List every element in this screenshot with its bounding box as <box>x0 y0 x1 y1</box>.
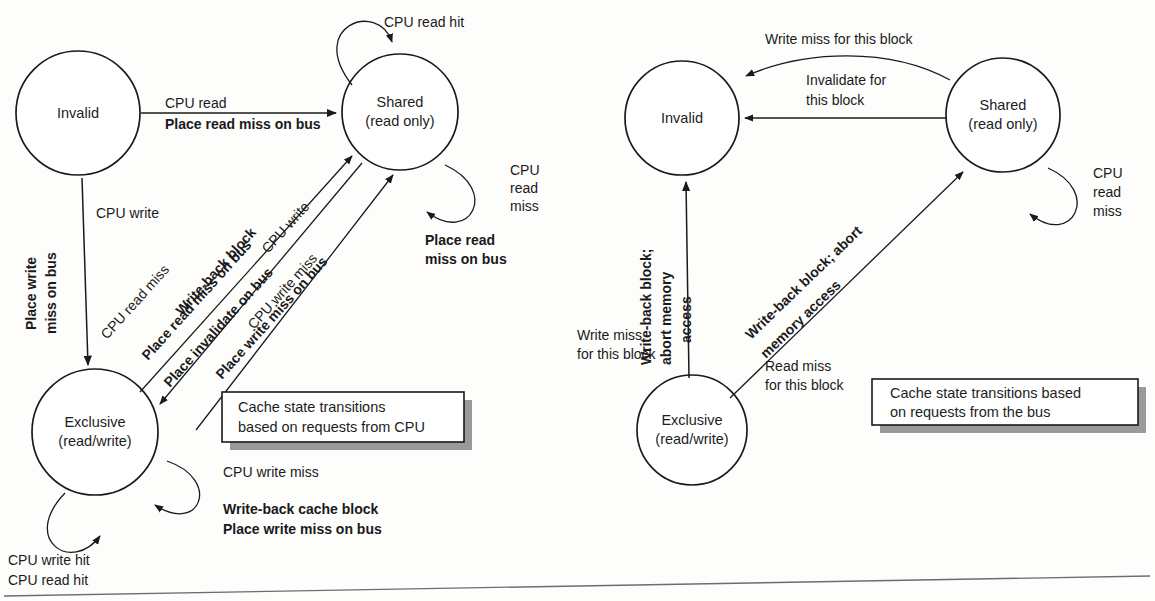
state-circle <box>637 375 747 485</box>
state-node-shared-cpu[interactable]: Shared (read only) <box>342 54 475 179</box>
self-loop-label-shared-read-miss-line1: CPU <box>510 162 540 178</box>
callout-bus-line1: Cache state transitions based <box>890 385 1081 401</box>
callout-cpu: Cache state transitions based on request… <box>222 392 472 450</box>
state-label-shared-line2: (read only) <box>365 113 434 129</box>
edge-label-exclusive-to-shared-event-line1: Read miss <box>765 358 831 374</box>
self-loop-label-exclusive-write-miss-action1: Write-back cache block <box>223 501 379 517</box>
edge-invalid-to-exclusive <box>82 178 88 365</box>
edge-label-exclusive-to-invalid-action-line1: Write-back block; <box>638 249 654 365</box>
edge-label-invalid-to-exclusive-action-line2: miss on bus <box>43 252 59 334</box>
self-loop-label-shared-read-miss-action2: miss on bus <box>425 251 507 267</box>
self-loop-label-bus-shared-read-miss-line1: CPU <box>1093 165 1123 181</box>
state-circle <box>946 58 1060 172</box>
page-bottom-rule <box>4 576 1150 596</box>
edge-label-exclusive-to-invalid-event-line1: Write miss <box>577 327 642 343</box>
state-label-shared-line2: (read only) <box>968 116 1037 132</box>
self-loop-label-shared-read-miss-action1: Place read <box>425 232 495 248</box>
state-circle <box>342 54 458 170</box>
self-loop-label-bus-shared-read-miss-line3: miss <box>1093 203 1122 219</box>
state-label-invalid: Invalid <box>57 105 99 121</box>
state-label-shared-line1: Shared <box>980 97 1027 113</box>
callout-bus: Cache state transitions based on request… <box>872 379 1146 433</box>
bus-request-diagram: Invalid Shared (read only) Exclusive (re… <box>577 31 1146 494</box>
edge-label-shared-to-invalid-invalidate-line2: this block <box>806 92 865 108</box>
self-loop-label-shared-read-hit: CPU read hit <box>384 14 464 30</box>
self-loop-exclusive-hits <box>47 493 100 552</box>
state-label-exclusive-line2: (read/write) <box>655 431 728 447</box>
self-loop-label-exclusive-hits-line2: CPU read hit <box>8 572 88 588</box>
self-loop-label-shared-read-miss-line2: read <box>510 180 538 196</box>
self-loop-exclusive-write-miss <box>155 461 200 514</box>
self-loop-label-exclusive-hits-line1: CPU write hit <box>8 552 90 568</box>
cpu-request-diagram: Invalid Shared (read only) Exclusive (re… <box>8 14 540 588</box>
edge-label-shared-to-invalid-writemiss: Write miss for this block <box>765 31 914 47</box>
self-loop-shared-read-miss-bus <box>1030 168 1077 225</box>
edge-label-exclusive-to-invalid-action-line3: access <box>678 296 694 343</box>
figure-canvas: Invalid Shared (read only) Exclusive (re… <box>0 0 1155 601</box>
edge-label-invalid-to-shared-action: Place read miss on bus <box>165 116 321 132</box>
state-node-invalid-cpu[interactable]: Invalid <box>16 51 156 183</box>
edge-label-invalid-to-exclusive-event: CPU write <box>96 205 159 221</box>
self-loop-label-bus-shared-read-miss-line2: read <box>1093 184 1121 200</box>
edge-label-shared-to-invalid-invalidate-line1: Invalidate for <box>806 72 886 88</box>
self-loop-label-exclusive-write-miss-event: CPU write miss <box>223 464 319 480</box>
state-node-exclusive-cpu[interactable]: Exclusive (read/write) <box>32 369 175 504</box>
edge-label-shared-to-exclusive-event: CPU write <box>258 198 312 256</box>
state-diagram-svg: Invalid Shared (read only) Exclusive (re… <box>0 0 1155 601</box>
self-loop-label-shared-read-miss-line3: miss <box>510 198 539 214</box>
state-label-exclusive-line1: Exclusive <box>64 414 125 430</box>
callout-cpu-line1: Cache state transitions <box>238 399 386 415</box>
callout-bus-line2: on requests from the bus <box>890 404 1050 420</box>
self-loop-label-exclusive-write-miss-action2: Place write miss on bus <box>223 521 382 537</box>
state-node-shared-bus[interactable]: Shared (read only) <box>946 58 1077 181</box>
callout-cpu-line2: based on requests from CPU <box>238 419 425 435</box>
state-node-exclusive-bus[interactable]: Exclusive (read/write) <box>637 375 764 494</box>
state-label-exclusive-line1: Exclusive <box>661 412 722 428</box>
state-label-shared-line1: Shared <box>377 94 424 110</box>
edge-exclusive-to-invalid <box>686 182 689 378</box>
self-loop-shared-read-miss <box>427 165 475 222</box>
state-label-invalid: Invalid <box>661 110 703 126</box>
state-node-invalid-bus[interactable]: Invalid <box>625 61 755 183</box>
edge-label-exclusive-to-shared-event-line2: for this block <box>765 377 845 393</box>
edge-label-exclusive-to-invalid-action-line2: abort memory <box>658 271 674 365</box>
edge-label-invalid-to-exclusive-action-line1: Place write <box>23 257 39 330</box>
state-label-exclusive-line2: (read/write) <box>58 433 131 449</box>
state-circle <box>32 369 158 495</box>
edge-label-invalid-to-shared-event: CPU read <box>165 95 226 111</box>
